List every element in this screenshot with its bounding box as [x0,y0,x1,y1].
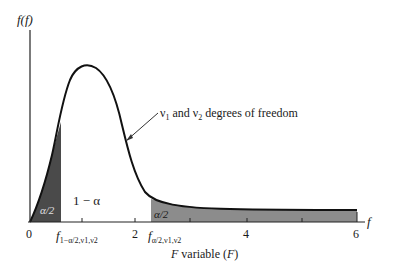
x-axis-end-label: f [367,214,373,229]
x-axis-title: F variable (F) [170,247,238,261]
tick-label-2: 2 [132,227,138,241]
critical-value-lower-label: f1−α/2,ν1,ν2 [56,228,98,245]
y-axis-label: f(f) [17,12,33,27]
tick-label-6: 6 [353,227,359,241]
degrees-of-freedom-annotation: ν1 and ν2 degrees of freedom [160,106,298,122]
center-area-label: 1 − α [73,193,100,208]
upper-tail-label: α/2 [154,208,169,220]
tick-label-0: 0 [26,227,32,241]
critical-value-upper-label: fα/2,ν1,ν2 [148,228,181,245]
lower-tail-label: α/2 [40,204,55,216]
tick-label-4: 4 [243,227,249,241]
annotation-arrowhead [126,134,133,141]
f-distribution-diagram: f(f) f 0 2 4 6 α/2 1 − α α/2 ν1 and ν2 d… [0,0,397,266]
